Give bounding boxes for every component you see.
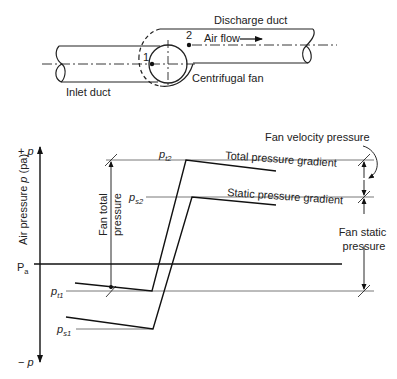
- pt2-label: pt2: [158, 148, 172, 163]
- total-pressure-gradient-label: Total pressure gradient: [225, 149, 337, 169]
- pt1-dimension-dot: [109, 285, 113, 289]
- velocity-pressure-leader: [363, 146, 377, 178]
- pt1-label: pt1: [50, 285, 63, 300]
- fan-static-pressure-label: Fan static pressure: [339, 226, 390, 252]
- point-1-marker: [150, 62, 154, 66]
- point-2-label: 2: [186, 29, 192, 41]
- inlet-duct-label: Inlet duct: [66, 86, 111, 98]
- y-bottom-label: − p: [18, 356, 34, 368]
- point-1-label: 1: [143, 51, 149, 63]
- point-2-marker: [187, 43, 191, 47]
- ps1-label: ps1: [56, 323, 71, 338]
- centrifugal-fan-label: Centrifugal fan: [192, 72, 264, 84]
- y-axis-label: Air pressure p (pa): [17, 154, 29, 245]
- ps2-label: ps2: [128, 191, 144, 206]
- fan-velocity-pressure-label: Fan velocity pressure: [265, 131, 370, 143]
- fan-pressure-diagram: 1 2 Discharge duct Air flow Inlet duct C…: [0, 0, 397, 379]
- air-flow-label: Air flow: [204, 32, 240, 44]
- discharge-duct: [303, 29, 314, 63]
- pressure-chart: + p − p Air pressure p (pa) Pa pt2 ps2 p…: [17, 131, 389, 368]
- fan-total-pressure-label: Fan total pressure: [97, 190, 123, 236]
- duct-schematic: 1 2 Discharge duct Air flow Inlet duct C…: [42, 14, 337, 98]
- atmospheric-label: Pa: [17, 261, 29, 276]
- static-pressure-gradient-label: Static pressure gradient: [227, 186, 344, 206]
- discharge-duct-label: Discharge duct: [214, 14, 287, 26]
